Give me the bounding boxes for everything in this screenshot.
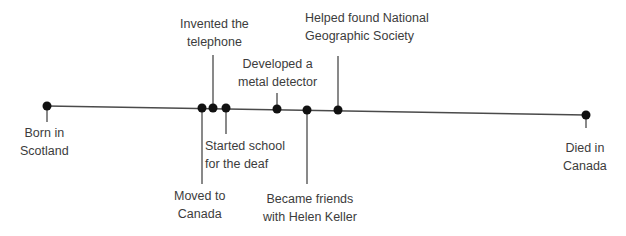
label-natgeo-line1: Helped found National xyxy=(305,9,429,27)
label-natgeo-line2: Geographic Society xyxy=(305,27,429,45)
label-telephone: Invented the telephone xyxy=(180,15,249,51)
label-telephone-line1: Invented the xyxy=(180,15,249,33)
label-metal-line1: Developed a xyxy=(238,55,317,73)
label-born-line2: Scotland xyxy=(20,142,69,160)
label-keller-line1: Became friends xyxy=(263,190,357,208)
timeline-axis xyxy=(47,106,586,115)
label-moved-line2: Canada xyxy=(174,205,225,223)
label-telephone-line2: telephone xyxy=(180,33,249,51)
label-died-line1: Died in xyxy=(563,139,607,157)
label-keller-line2: with Helen Keller xyxy=(263,208,357,226)
label-keller: Became friends with Helen Keller xyxy=(263,190,357,226)
label-moved: Moved to Canada xyxy=(174,187,225,223)
dot-natgeo xyxy=(334,106,343,115)
label-born-line1: Born in xyxy=(20,124,69,142)
label-born: Born in Scotland xyxy=(20,124,69,160)
dot-born xyxy=(43,102,52,111)
label-natgeo: Helped found National Geographic Society xyxy=(305,9,429,45)
dot-metal xyxy=(273,105,282,114)
label-died: Died in Canada xyxy=(563,139,607,175)
dot-died xyxy=(582,111,591,120)
label-metal: Developed a metal detector xyxy=(238,55,317,91)
dot-telephone xyxy=(209,104,218,113)
label-metal-line2: metal detector xyxy=(238,73,317,91)
label-school-line2: for the deaf xyxy=(205,155,285,173)
dot-keller xyxy=(303,106,312,115)
label-died-line2: Canada xyxy=(563,157,607,175)
label-school: Started school for the deaf xyxy=(205,137,285,173)
label-school-line1: Started school xyxy=(205,137,285,155)
dot-school xyxy=(222,104,231,113)
dot-moved xyxy=(198,104,207,113)
label-moved-line1: Moved to xyxy=(174,187,225,205)
